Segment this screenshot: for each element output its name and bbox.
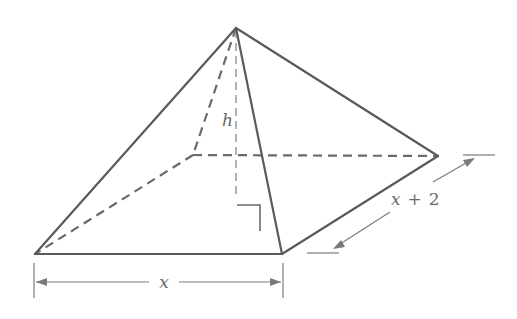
width-label: x [159,272,169,292]
depth-label-constant: 2 [429,189,440,209]
height-label: h [222,110,233,130]
depth-arrow-bottom-line [337,212,390,246]
edge-apex-backright [236,28,438,156]
width-arrowhead-right [270,278,281,286]
hidden-edge-left-base [35,155,193,254]
edge-apex-frontright [236,28,282,254]
hidden-edge-apex-backleft [193,28,236,155]
pyramid-diagram: x x + 2 h [0,0,517,319]
depth-label: x + 2 [391,189,440,209]
hidden-edge-back-base [193,155,438,156]
depth-arrowhead-top [463,158,475,167]
depth-dimension: x + 2 [307,155,495,253]
width-dimension: x [34,263,283,298]
depth-label-variable: x [391,189,401,209]
edge-apex-frontleft [35,28,236,254]
depth-label-operator: + [408,189,422,209]
width-arrowhead-left [36,278,47,286]
right-angle-marker [237,205,260,231]
